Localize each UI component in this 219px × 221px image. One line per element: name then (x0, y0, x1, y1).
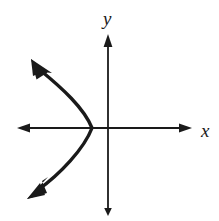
x-axis-label: x (201, 121, 209, 140)
graph-figure: y x (0, 0, 219, 221)
y-axis-label: y (103, 9, 111, 28)
y-axis-bottom-arrow-icon (104, 208, 112, 216)
y-axis-top-arrow-icon (104, 34, 113, 47)
x-axis-right-arrow-icon (179, 124, 192, 133)
parabola-curve (38, 70, 92, 190)
coordinate-plane-svg (0, 0, 219, 221)
x-axis-left-arrow-icon (17, 124, 30, 133)
